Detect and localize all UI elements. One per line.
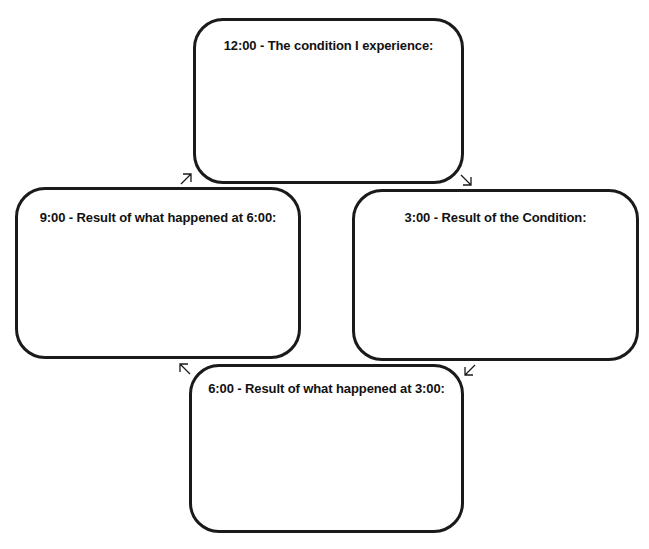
box-title-3-00: 3:00 - Result of the Condition: [355, 210, 636, 225]
arrow-left-to-top-icon [178, 170, 196, 188]
box-6-00-result: 6:00 - Result of what happened at 3:00: [189, 364, 464, 533]
box-12-00-condition: 12:00 - The condition I experience: [193, 18, 464, 184]
arrow-bottom-to-left-icon [176, 360, 194, 378]
arrow-top-to-right-icon [458, 172, 476, 190]
arrow-right-to-bottom-icon [461, 362, 479, 380]
box-title-9-00: 9:00 - Result of what happened at 6:00: [18, 210, 298, 225]
box-title-12-00: 12:00 - The condition I experience: [196, 38, 461, 53]
box-9-00-result: 9:00 - Result of what happened at 6:00: [15, 187, 301, 359]
box-title-6-00: 6:00 - Result of what happened at 3:00: [192, 381, 461, 396]
box-3-00-result: 3:00 - Result of the Condition: [352, 189, 639, 361]
